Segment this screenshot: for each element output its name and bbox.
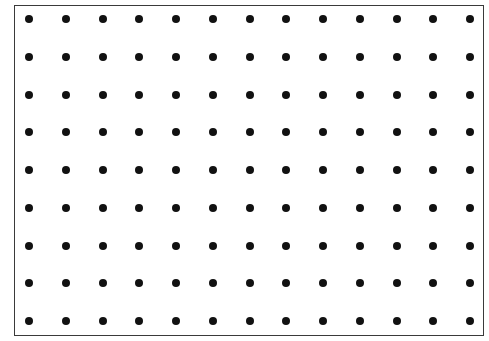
grid-dot xyxy=(62,279,70,287)
grid-dot xyxy=(99,166,107,174)
grid-dot xyxy=(356,91,364,99)
grid-dot xyxy=(25,53,33,61)
grid-dot xyxy=(62,317,70,325)
grid-dot xyxy=(393,204,401,212)
grid-dot xyxy=(135,53,143,61)
grid-dot xyxy=(393,53,401,61)
grid-dot xyxy=(172,53,180,61)
grid-dot xyxy=(282,91,290,99)
grid-dot xyxy=(209,128,217,136)
grid-dot xyxy=(99,15,107,23)
grid-dot xyxy=(99,242,107,250)
grid-dot xyxy=(246,91,254,99)
grid-dot xyxy=(319,15,327,23)
grid-dot xyxy=(356,53,364,61)
grid-dot xyxy=(209,15,217,23)
grid-dot xyxy=(466,317,474,325)
grid-dot xyxy=(99,91,107,99)
grid-dot xyxy=(466,242,474,250)
grid-dot xyxy=(429,53,437,61)
grid-dot xyxy=(393,279,401,287)
grid-dot xyxy=(25,166,33,174)
grid-dot xyxy=(246,242,254,250)
grid-dot xyxy=(282,242,290,250)
grid-dot xyxy=(209,53,217,61)
grid-dot xyxy=(135,242,143,250)
grid-dot xyxy=(393,15,401,23)
grid-dot xyxy=(246,317,254,325)
grid-dot xyxy=(25,204,33,212)
grid-dot xyxy=(393,242,401,250)
grid-dot xyxy=(319,317,327,325)
grid-dot xyxy=(282,204,290,212)
grid-dot xyxy=(62,53,70,61)
grid-dot xyxy=(135,91,143,99)
grid-dot xyxy=(99,128,107,136)
grid-dot xyxy=(319,91,327,99)
grid-dot xyxy=(356,279,364,287)
grid-dot xyxy=(209,317,217,325)
grid-dot xyxy=(62,128,70,136)
grid-dot xyxy=(99,279,107,287)
grid-dot xyxy=(393,91,401,99)
grid-dot xyxy=(356,242,364,250)
grid-dot xyxy=(99,204,107,212)
grid-dot xyxy=(393,317,401,325)
grid-dot xyxy=(209,204,217,212)
grid-dot xyxy=(319,204,327,212)
grid-dot xyxy=(172,91,180,99)
grid-dot xyxy=(319,166,327,174)
grid-dot xyxy=(319,53,327,61)
grid-dot xyxy=(172,204,180,212)
grid-dot xyxy=(62,166,70,174)
grid-dot xyxy=(466,91,474,99)
grid-dot xyxy=(429,204,437,212)
grid-dot xyxy=(429,91,437,99)
grid-dot xyxy=(209,279,217,287)
grid-dot xyxy=(246,128,254,136)
grid-dot xyxy=(62,204,70,212)
grid-dot xyxy=(25,15,33,23)
grid-dot xyxy=(282,53,290,61)
grid-dot xyxy=(62,15,70,23)
grid-dot xyxy=(209,242,217,250)
grid-dot xyxy=(25,317,33,325)
grid-dot xyxy=(319,242,327,250)
grid-dot xyxy=(99,53,107,61)
grid-dot xyxy=(25,91,33,99)
grid-dot xyxy=(356,317,364,325)
grid-dot xyxy=(356,128,364,136)
grid-dot xyxy=(62,242,70,250)
grid-dot xyxy=(172,242,180,250)
grid-dot xyxy=(209,166,217,174)
grid-dot xyxy=(429,242,437,250)
grid-dot xyxy=(25,242,33,250)
grid-dot xyxy=(246,279,254,287)
grid-dot xyxy=(62,91,70,99)
grid-dot xyxy=(246,166,254,174)
grid-dot xyxy=(466,166,474,174)
grid-dot xyxy=(246,15,254,23)
grid-dot xyxy=(356,15,364,23)
grid-dot xyxy=(393,166,401,174)
grid-dot xyxy=(466,15,474,23)
grid-dot xyxy=(172,166,180,174)
grid-dot xyxy=(99,317,107,325)
grid-dot xyxy=(356,204,364,212)
grid-dot xyxy=(356,166,364,174)
grid-dot xyxy=(246,204,254,212)
grid-dot xyxy=(135,204,143,212)
grid-dot xyxy=(172,317,180,325)
grid-dot xyxy=(246,53,254,61)
grid-dot xyxy=(209,91,217,99)
grid-dot xyxy=(466,204,474,212)
grid-dot xyxy=(466,53,474,61)
grid-dot xyxy=(393,128,401,136)
grid-dot xyxy=(172,15,180,23)
